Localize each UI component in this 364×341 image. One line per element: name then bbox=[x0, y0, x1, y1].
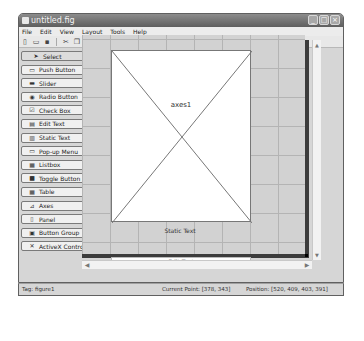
panel-icon: ▯ bbox=[28, 216, 36, 222]
status-current-point: Current Point: [378, 343] bbox=[162, 284, 230, 295]
status-tag: Tag: figure1 bbox=[22, 284, 54, 295]
scroll-left-icon[interactable]: ◀ bbox=[83, 261, 91, 269]
axes-tag-label: axes1 bbox=[112, 101, 250, 109]
open-file-icon[interactable]: ▭ bbox=[32, 38, 40, 46]
vertical-scrollbar[interactable]: ▲ ▼ bbox=[312, 40, 321, 260]
axes1-component[interactable]: axes1 bbox=[111, 50, 251, 222]
listbox-icon: ▦ bbox=[28, 162, 36, 168]
maximize-button[interactable]: □ bbox=[319, 15, 329, 25]
push-button-icon: ▭ bbox=[28, 67, 36, 73]
status-position: Position: [520, 409, 403, 391] bbox=[246, 284, 328, 295]
toggle-button-icon: ■ bbox=[28, 175, 36, 181]
copy-icon[interactable]: ❐ bbox=[73, 38, 81, 46]
edit-text-icon: ▤ bbox=[28, 121, 36, 127]
new-file-icon[interactable]: ▯ bbox=[21, 38, 29, 46]
window-title: untitled.fig bbox=[31, 14, 75, 27]
scroll-up-icon[interactable]: ▲ bbox=[313, 41, 321, 49]
menu-file[interactable]: File bbox=[22, 27, 32, 36]
slider-icon: ▬ bbox=[28, 80, 36, 86]
cut-icon[interactable]: ✂ bbox=[62, 38, 70, 46]
button-group-icon: ▣ bbox=[28, 230, 36, 236]
menu-view[interactable]: View bbox=[60, 27, 74, 36]
scroll-right-icon[interactable]: ▶ bbox=[303, 261, 311, 269]
minimize-button[interactable]: _ bbox=[308, 15, 318, 25]
horizontal-scrollbar[interactable]: ◀ ▶ bbox=[82, 260, 312, 269]
static-text-icon: ▥ bbox=[28, 135, 36, 141]
toolbar-separator bbox=[56, 38, 57, 46]
popup-menu-icon: ▭ bbox=[28, 148, 36, 154]
arrow-pointer-icon: ➤ bbox=[32, 53, 40, 59]
status-bar: Tag: figure1 Current Point: [378, 343] P… bbox=[18, 283, 344, 296]
axes-icon: ⊿ bbox=[28, 203, 36, 209]
menu-edit[interactable]: Edit bbox=[40, 27, 52, 36]
static-text-component[interactable]: Static Text bbox=[130, 227, 230, 234]
radio-button-icon: ◉ bbox=[28, 94, 36, 100]
close-button[interactable]: × bbox=[330, 15, 340, 25]
axes-placeholder-cross bbox=[112, 51, 252, 223]
matlab-figure-icon bbox=[22, 17, 29, 24]
scroll-down-icon[interactable]: ▼ bbox=[313, 251, 321, 259]
table-icon: ▦ bbox=[28, 189, 36, 195]
title-bar[interactable]: untitled.fig _ □ × bbox=[19, 14, 343, 27]
figure-resize-handle[interactable] bbox=[305, 254, 308, 257]
save-icon[interactable]: ▪ bbox=[43, 38, 51, 46]
check-box-icon: ☑ bbox=[28, 107, 36, 113]
activex-icon: ✕ bbox=[28, 243, 36, 249]
figure-border-right bbox=[305, 40, 309, 258]
